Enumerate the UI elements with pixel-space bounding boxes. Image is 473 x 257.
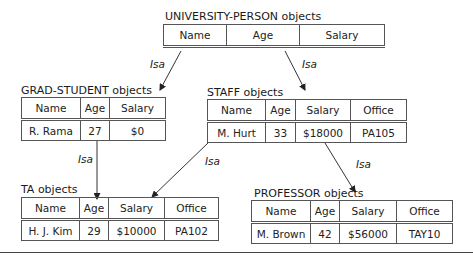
cell-name: R. Rama — [22, 120, 81, 141]
col-age: Age — [80, 198, 109, 220]
header-row: Name Age Salary Office — [252, 201, 453, 223]
university-person-table: Name Age Salary — [163, 24, 385, 48]
header-row: Name Age Salary Office — [208, 100, 407, 122]
arrow-staff-to-prof — [325, 143, 355, 192]
col-name: Name — [164, 25, 227, 47]
cell-age: 33 — [266, 122, 296, 143]
col-name: Name — [208, 100, 266, 122]
ta-title: TA objects — [21, 183, 78, 196]
col-age: Age — [81, 98, 110, 120]
col-age: Age — [311, 201, 340, 223]
isa-label-up-staff: Isa — [302, 58, 317, 70]
cell-age: 29 — [80, 220, 109, 241]
table-row: M. Hurt 33 $18000 PA105 — [208, 122, 407, 143]
isa-label-grad-ta: Isa — [78, 153, 93, 165]
cell-name: M. Brown — [252, 223, 311, 244]
cell-salary: $10000 — [109, 220, 165, 241]
col-salary: Salary — [296, 100, 351, 122]
grad-student-title: GRAD-STUDENT objects — [21, 84, 152, 97]
col-salary: Salary — [109, 198, 165, 220]
table-row: R. Rama 27 $0 — [22, 120, 166, 141]
isa-label-up-grad: Isa — [150, 58, 165, 70]
header-row: Name Age Salary Office — [22, 198, 219, 220]
professor-table: Name Age Salary Office M. Brown 42 $5600… — [251, 200, 453, 244]
col-name: Name — [22, 198, 80, 220]
cell-age: 42 — [311, 223, 340, 244]
staff-table: Name Age Salary Office M. Hurt 33 $18000… — [207, 99, 407, 143]
col-office: Office — [165, 198, 219, 220]
col-name: Name — [22, 98, 81, 120]
col-office: Office — [397, 201, 453, 223]
table-row: H. J. Kim 29 $10000 PA102 — [22, 220, 219, 241]
col-salary: Salary — [300, 25, 385, 47]
cell-name: M. Hurt — [208, 122, 266, 143]
grad-student-table: Name Age Salary R. Rama 27 $0 — [21, 97, 166, 141]
col-salary: Salary — [340, 201, 397, 223]
ta-table: Name Age Salary Office H. J. Kim 29 $100… — [21, 197, 219, 241]
cell-age: 27 — [81, 120, 110, 141]
table-row: M. Brown 42 $56000 TAY10 — [252, 223, 453, 244]
col-office: Office — [351, 100, 407, 122]
cell-office: TAY10 — [397, 223, 453, 244]
cell-office: PA105 — [351, 122, 407, 143]
arrow-staff-to-ta — [152, 143, 208, 197]
isa-label-staff-ta: Isa — [205, 155, 220, 167]
col-name: Name — [252, 201, 311, 223]
cell-salary: $0 — [110, 120, 166, 141]
arrow-up-to-grad — [160, 51, 181, 90]
staff-title: STAFF objects — [207, 86, 283, 99]
isa-label-staff-prof: Isa — [356, 158, 371, 170]
header-row: Name Age Salary — [22, 98, 166, 120]
cell-salary: $56000 — [340, 223, 397, 244]
cell-name: H. J. Kim — [22, 220, 80, 241]
col-age: Age — [227, 25, 300, 47]
header-row: Name Age Salary — [164, 25, 385, 47]
bottom-rule — [0, 252, 473, 253]
cell-office: PA102 — [165, 220, 219, 241]
professor-title: PROFESSOR objects — [254, 187, 364, 200]
col-salary: Salary — [110, 98, 166, 120]
arrow-up-to-staff — [285, 51, 305, 90]
university-person-title: UNIVERSITY-PERSON objects — [165, 10, 321, 23]
col-age: Age — [266, 100, 296, 122]
cell-salary: $18000 — [296, 122, 351, 143]
